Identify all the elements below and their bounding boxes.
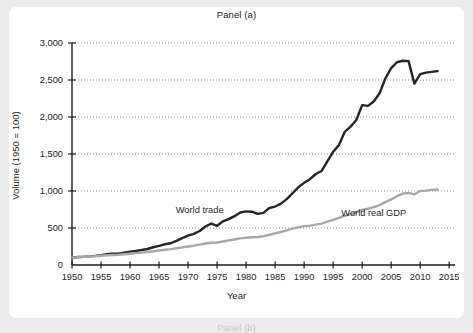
series-label-world-real-gdp: World real GDP <box>341 208 406 218</box>
y-tick-label: 1,500 <box>40 149 63 159</box>
chart-title: Panel (a) <box>0 9 473 20</box>
x-tick-label: 2010 <box>410 272 431 282</box>
series-label-world-trade: World trade <box>176 205 224 215</box>
x-tick-label: 2005 <box>381 272 402 282</box>
x-tick-label: 1960 <box>120 272 141 282</box>
x-tick-label: 1990 <box>294 272 315 282</box>
x-tick-label: 1955 <box>91 272 112 282</box>
y-axis-label: Volume (1950 = 100) <box>10 56 21 256</box>
y-tick-label: 500 <box>47 223 63 233</box>
x-tick-label: 1985 <box>265 272 286 282</box>
y-tick-label: 1,000 <box>40 186 63 196</box>
x-tick-label: 1980 <box>236 272 257 282</box>
y-tick-label: 2,500 <box>40 75 63 85</box>
x-axis-label: Year <box>0 290 473 301</box>
x-tick-label: 1995 <box>323 272 344 282</box>
series-line-world-real-gdp <box>72 190 438 258</box>
next-panel-title: Panel (b) <box>0 322 473 333</box>
x-tick-label: 1970 <box>178 272 199 282</box>
x-tick-label: 1950 <box>62 272 83 282</box>
x-tick-label: 1975 <box>207 272 228 282</box>
x-tick-label: 2015 <box>439 272 460 282</box>
x-tick-label: 2000 <box>352 272 373 282</box>
y-tick-label: 3,000 <box>40 38 63 48</box>
y-tick-label: 0 <box>58 260 63 270</box>
x-tick-label: 1965 <box>149 272 170 282</box>
y-tick-label: 2,000 <box>40 112 63 122</box>
